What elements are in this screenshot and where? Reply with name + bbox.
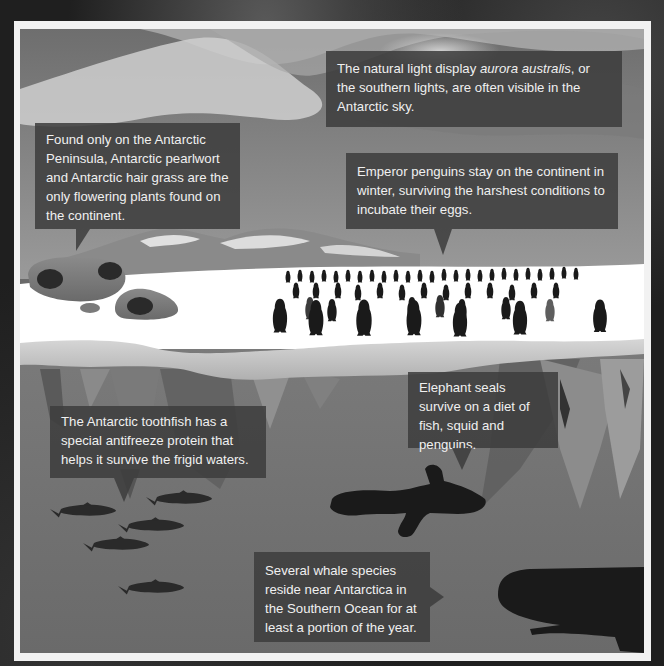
callout-aurora: The natural light display aurora austral… [326, 51, 622, 127]
callout-seals: Elephant seals survive on a diet of fish… [408, 372, 558, 448]
callout-toothfish-pointer [114, 478, 134, 502]
seals-text: Elephant seals survive on a diet of fish… [419, 380, 530, 452]
whales-text: Several whale species reside near Antarc… [265, 563, 417, 635]
aurora-text-before: The natural light display [337, 61, 480, 76]
callout-whales: Several whale species reside near Antarc… [254, 552, 430, 642]
callout-plants-pointer [76, 229, 90, 251]
penguins-text: Emperor penguins stay on the continent i… [357, 164, 605, 217]
callout-toothfish: The Antarctic toothfish has a special an… [50, 406, 266, 478]
aurora-text-italic: aurora australis [480, 61, 571, 76]
callout-whales-pointer [430, 587, 444, 607]
callout-plants: Found only on the Antarctic Peninsula, A… [35, 123, 240, 229]
plants-text: Found only on the Antarctic Peninsula, A… [46, 132, 229, 223]
callout-penguins-pointer [434, 229, 452, 255]
antarctic-scene: The natural light display aurora austral… [20, 29, 644, 653]
callout-penguins: Emperor penguins stay on the continent i… [346, 153, 618, 229]
callout-seals-pointer [452, 448, 472, 470]
toothfish-text: The Antarctic toothfish has a special an… [61, 414, 249, 467]
